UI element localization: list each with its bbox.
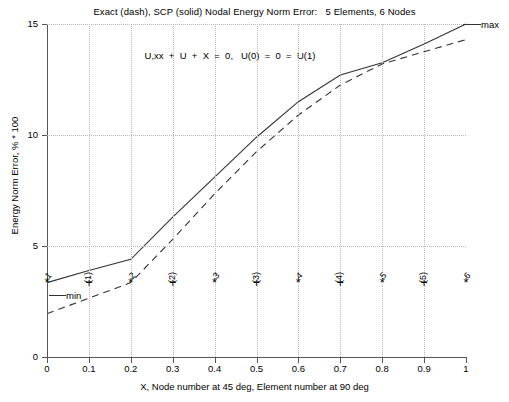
x-tick-label: 0.2 xyxy=(111,363,151,374)
x-tick-label: 0.7 xyxy=(320,363,360,374)
x-tick-label: 0.3 xyxy=(153,363,193,374)
max-leader-line xyxy=(463,24,481,25)
x-tick-label: 0.1 xyxy=(69,363,109,374)
gridline-vertical xyxy=(424,24,425,357)
x-tick-label: 0.5 xyxy=(237,363,277,374)
y-axis-title: Energy Norm Error, % * 100 xyxy=(9,76,20,276)
min-leader-line xyxy=(49,295,66,296)
series-curves xyxy=(0,0,509,402)
element-number-label: (2) xyxy=(167,272,177,283)
gridline-vertical xyxy=(340,24,341,357)
y-tick-label: 0 xyxy=(8,351,38,362)
y-tick xyxy=(42,135,47,136)
gridline-vertical xyxy=(382,24,383,357)
y-tick xyxy=(42,24,47,25)
x-tick-label: 1 xyxy=(446,363,486,374)
x-axis-title: X, Node number at 45 deg, Element number… xyxy=(0,381,509,392)
y-tick xyxy=(42,246,47,247)
x-tick-label: 0.4 xyxy=(195,363,235,374)
gridline-vertical xyxy=(173,24,174,357)
y-tick-label: 15 xyxy=(8,18,38,29)
figure-canvas: Exact (dash), SCP (solid) Nodal Energy N… xyxy=(0,0,509,402)
gridline-vertical xyxy=(298,24,299,357)
element-number-label: (5) xyxy=(418,272,428,283)
min-annotation: min xyxy=(66,290,81,301)
element-number-label: (1) xyxy=(83,272,93,283)
gridline-vertical xyxy=(131,24,132,357)
element-number-label: (4) xyxy=(334,272,344,283)
element-number-label: (3) xyxy=(251,272,261,283)
y-axis-line xyxy=(47,24,48,358)
x-tick-label: 0 xyxy=(27,363,67,374)
x-tick-label: 0.8 xyxy=(362,363,402,374)
gridline-vertical xyxy=(89,24,90,357)
gridline-vertical xyxy=(215,24,216,357)
chart-title: Exact (dash), SCP (solid) Nodal Energy N… xyxy=(0,6,509,17)
gridline-vertical xyxy=(257,24,258,357)
max-annotation: max xyxy=(481,19,499,30)
x-tick-label: 0.6 xyxy=(278,363,318,374)
x-tick-label: 0.9 xyxy=(404,363,444,374)
